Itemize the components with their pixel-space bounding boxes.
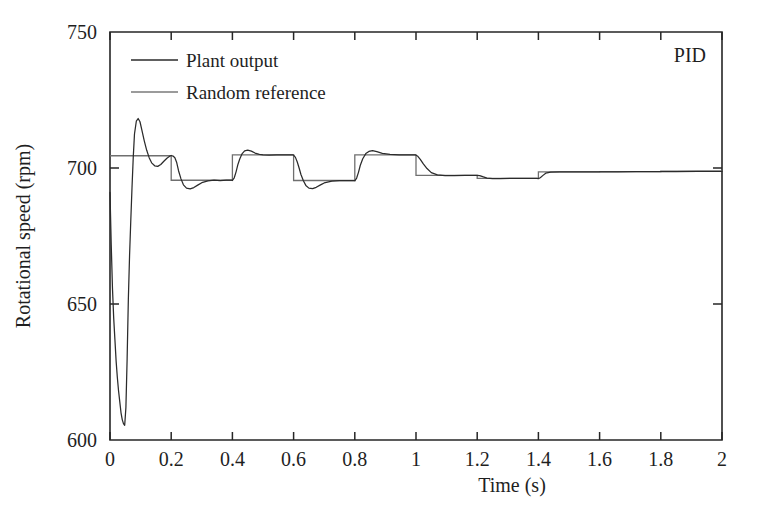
x-tick-label: 0.8 (342, 448, 367, 470)
x-tick-label: 0 (105, 448, 115, 470)
chart-canvas: 00.20.40.60.811.21.41.61.82 600650700750… (0, 0, 760, 523)
x-tick-label: 0.4 (220, 448, 245, 470)
x-tick-label: 1.8 (648, 448, 673, 470)
pid-annotation: PID (674, 44, 706, 66)
x-tick-label: 2 (717, 448, 727, 470)
x-tick-label: 0.6 (281, 448, 306, 470)
y-tick-label: 750 (67, 21, 97, 43)
x-tick-label: 1.6 (587, 448, 612, 470)
y-tick-label: 600 (67, 429, 97, 451)
x-tick-label: 1.4 (526, 448, 551, 470)
legend-label-random-reference: Random reference (186, 82, 326, 103)
y-tick-label: 650 (67, 293, 97, 315)
x-tick-label: 0.2 (159, 448, 184, 470)
x-tick-label: 1 (411, 448, 421, 470)
chart-figure: 00.20.40.60.811.21.41.61.82 600650700750… (0, 0, 760, 523)
y-tick-label: 700 (67, 157, 97, 179)
y-axis-title: Rotational speed (rpm) (12, 144, 35, 328)
x-tick-label: 1.2 (465, 448, 490, 470)
legend-label-plant-output: Plant output (186, 50, 279, 71)
x-axis-title: Time (s) (478, 474, 546, 497)
figure-background (0, 0, 760, 523)
